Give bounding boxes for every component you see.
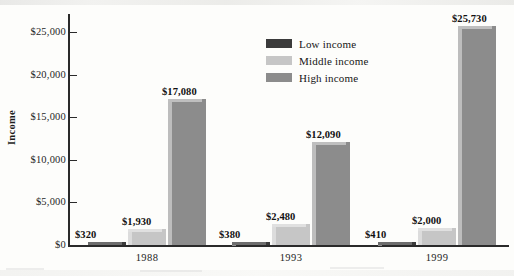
bar-top-face bbox=[312, 142, 346, 145]
bar-top-face bbox=[168, 99, 202, 102]
y-axis-tick-label-wrap: $0 bbox=[0, 239, 66, 251]
scan-speck bbox=[6, 268, 44, 270]
legend: Low incomeMiddle incomeHigh income bbox=[266, 36, 369, 87]
legend-swatch-high bbox=[266, 73, 292, 82]
bar-value-label: $410 bbox=[365, 229, 386, 240]
legend-item-high-income[interactable]: High income bbox=[266, 70, 369, 85]
y-axis-tick-label-wrap: $25,000 bbox=[0, 26, 66, 38]
legend-item-middle-income[interactable]: Middle income bbox=[266, 53, 369, 68]
bar-low-income-1988 bbox=[88, 242, 126, 245]
y-axis-tick bbox=[70, 75, 77, 76]
x-axis-category-label-1999: 1999 bbox=[378, 252, 496, 263]
y-axis-tick-label: $5,000 bbox=[8, 196, 66, 207]
y-axis-tick-label: $10,000 bbox=[8, 154, 66, 165]
y-axis-tick bbox=[70, 202, 77, 203]
bar-value-label: $2,000 bbox=[412, 215, 441, 226]
legend-item-label: High income bbox=[299, 72, 358, 84]
bar-middle-income-1999 bbox=[418, 228, 456, 245]
x-axis-category-label-1993: 1993 bbox=[232, 252, 350, 263]
y-axis-line bbox=[68, 14, 70, 247]
bar-top-face bbox=[88, 242, 122, 245]
bar-high-income-1993 bbox=[312, 142, 350, 245]
x-axis-line bbox=[68, 245, 509, 247]
bar-middle-income-1988 bbox=[128, 229, 166, 245]
bar-middle-income-1993 bbox=[272, 224, 310, 245]
y-axis-tick bbox=[70, 245, 77, 246]
bar-top-face bbox=[418, 228, 452, 231]
legend-item-low-income[interactable]: Low income bbox=[266, 36, 369, 51]
scan-artifact-top bbox=[0, 0, 514, 5]
bar-chart-figure: Income $0$5,000$10,000$15,000$20,000$25,… bbox=[0, 0, 514, 276]
y-axis-tick bbox=[70, 117, 77, 118]
scan-speck bbox=[140, 270, 202, 272]
y-axis-tick bbox=[70, 32, 77, 33]
y-axis-tick-label-wrap: $10,000 bbox=[0, 154, 66, 166]
legend-swatch-middle bbox=[266, 56, 292, 65]
bar-value-label: $1,930 bbox=[122, 216, 151, 227]
y-axis-tick-label-wrap: $5,000 bbox=[0, 196, 66, 208]
y-axis-title: Income bbox=[6, 98, 17, 158]
bar-high-income-1999 bbox=[458, 26, 496, 245]
y-axis-tick bbox=[70, 160, 77, 161]
legend-item-label: Middle income bbox=[299, 55, 369, 67]
bar-value-label: $2,480 bbox=[266, 211, 295, 222]
bar-value-label: $320 bbox=[75, 229, 96, 240]
bar-value-label: $12,090 bbox=[306, 129, 341, 140]
bar-top-face bbox=[232, 242, 266, 245]
bar-value-label: $17,080 bbox=[162, 86, 197, 97]
bar-high-income-1988 bbox=[168, 99, 206, 245]
bar-top-face bbox=[128, 229, 162, 232]
bar-front-face bbox=[172, 99, 206, 245]
y-axis-tick-label: $0 bbox=[8, 239, 66, 250]
bar-top-face bbox=[378, 242, 412, 245]
bar-top-face bbox=[458, 26, 492, 29]
y-axis-tick-label: $25,000 bbox=[8, 26, 66, 37]
legend-swatch-low bbox=[266, 39, 292, 48]
scan-speck bbox=[330, 267, 384, 269]
y-axis-tick-label: $15,000 bbox=[8, 111, 66, 122]
legend-item-label: Low income bbox=[299, 38, 356, 50]
bar-low-income-1993 bbox=[232, 242, 270, 245]
x-axis-category-label-1988: 1988 bbox=[88, 252, 206, 263]
y-axis-tick-label-wrap: $15,000 bbox=[0, 111, 66, 123]
bar-value-label: $380 bbox=[219, 229, 240, 240]
bar-value-label: $25,730 bbox=[452, 13, 487, 24]
bar-top-face bbox=[272, 224, 306, 227]
scan-artifact-bottom bbox=[0, 270, 514, 276]
bar-low-income-1999 bbox=[378, 242, 416, 245]
y-axis-tick-label: $20,000 bbox=[8, 69, 66, 80]
bar-front-face bbox=[462, 26, 496, 245]
y-axis-tick-label-wrap: $20,000 bbox=[0, 69, 66, 81]
bar-front-face bbox=[276, 224, 310, 245]
bar-front-face bbox=[316, 142, 350, 245]
